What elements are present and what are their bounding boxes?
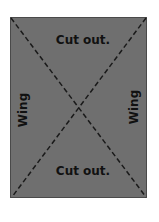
wing-label-left: Wing	[17, 93, 29, 127]
wing-label-right: Wing	[128, 90, 140, 124]
cut-out-label-bottom: Cut out.	[56, 165, 110, 177]
cut-out-label-top: Cut out.	[56, 34, 110, 46]
